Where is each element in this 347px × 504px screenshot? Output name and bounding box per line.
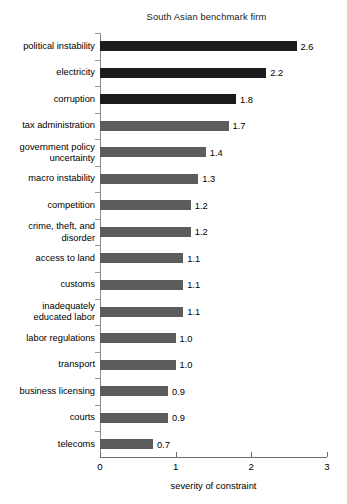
category-label: competition — [0, 200, 95, 211]
y-axis-tick — [95, 272, 100, 273]
bar-row: business licensing0.9 — [0, 378, 347, 405]
bar — [100, 147, 206, 157]
bar-value-label: 1.0 — [180, 360, 193, 370]
category-label: labor regulations — [0, 333, 95, 344]
bar — [100, 413, 168, 423]
y-axis-tick — [95, 86, 100, 87]
bar — [100, 121, 229, 131]
bar-value-label: 2.6 — [301, 42, 314, 52]
category-label: courts — [0, 412, 95, 423]
bar — [100, 333, 176, 343]
bar-value-label: 1.2 — [195, 227, 208, 237]
bar — [100, 200, 191, 210]
bar-row: electricity2.2 — [0, 60, 347, 87]
y-axis-tick — [95, 325, 100, 326]
bar-row: courts0.9 — [0, 405, 347, 432]
x-axis-tick — [251, 452, 252, 457]
bar-row: labor regulations1.0 — [0, 325, 347, 352]
category-label: customs — [0, 280, 95, 291]
category-label: inadequately educated labor — [0, 301, 95, 324]
bar-chart: South Asian benchmark firm political ins… — [0, 0, 347, 504]
x-axis-tick — [327, 452, 328, 457]
bar-row: transport1.0 — [0, 352, 347, 379]
y-axis-tick — [95, 378, 100, 379]
category-label: transport — [0, 359, 95, 370]
bar-row: access to land1.1 — [0, 245, 347, 272]
category-label: business licensing — [0, 386, 95, 397]
bar-value-label: 1.7 — [233, 121, 246, 131]
y-axis-tick — [95, 60, 100, 61]
y-axis-tick — [95, 219, 100, 220]
category-label: political instability — [0, 41, 95, 52]
y-axis-tick — [95, 299, 100, 300]
bar-row: inadequately educated labor1.1 — [0, 299, 347, 326]
category-label: access to land — [0, 253, 95, 264]
x-axis-title: severity of constraint — [100, 480, 327, 491]
bar-row: tax administration1.7 — [0, 113, 347, 140]
category-label: corruption — [0, 94, 95, 105]
bar-value-label: 0.7 — [157, 440, 170, 450]
bar-row: corruption1.8 — [0, 86, 347, 113]
y-axis-tick — [95, 33, 100, 34]
bar-value-label: 1.1 — [187, 280, 200, 290]
category-label: telecoms — [0, 439, 95, 450]
bar-value-label: 1.0 — [180, 334, 193, 344]
plot-area: political instability2.6electricity2.2co… — [0, 0, 347, 504]
bar-row: telecoms0.7 — [0, 431, 347, 458]
y-axis-tick — [95, 245, 100, 246]
x-axis-tick-label: 3 — [315, 461, 339, 472]
bar-value-label: 0.9 — [172, 387, 185, 397]
category-label: macro instability — [0, 174, 95, 185]
bar — [100, 253, 183, 263]
bar-value-label: 1.1 — [187, 307, 200, 317]
category-label: tax administration — [0, 120, 95, 131]
bar-row: political instability2.6 — [0, 33, 347, 60]
y-axis-tick — [95, 139, 100, 140]
bar — [100, 227, 191, 237]
bar-row: competition1.2 — [0, 192, 347, 219]
bar-value-label: 1.4 — [210, 148, 223, 158]
bar-row: customs1.1 — [0, 272, 347, 299]
bar-value-label: 1.3 — [202, 174, 215, 184]
x-axis-tick-label: 1 — [164, 461, 188, 472]
x-axis-tick-label: 2 — [239, 461, 263, 472]
category-label: crime, theft, and disorder — [0, 221, 95, 244]
bar — [100, 439, 153, 449]
bar-row: crime, theft, and disorder1.2 — [0, 219, 347, 246]
bar-value-label: 2.2 — [270, 68, 283, 78]
y-axis-tick — [95, 166, 100, 167]
y-axis-tick — [95, 352, 100, 353]
bar — [100, 386, 168, 396]
bar — [100, 41, 297, 51]
bar-row: macro instability1.3 — [0, 166, 347, 193]
y-axis-tick — [95, 431, 100, 432]
bar — [100, 174, 198, 184]
bar — [100, 280, 183, 290]
bar — [100, 68, 266, 78]
bar — [100, 360, 176, 370]
x-axis-tick — [100, 452, 101, 457]
x-axis-tick-label: 0 — [88, 461, 112, 472]
bar-value-label: 0.9 — [172, 413, 185, 423]
bar — [100, 307, 183, 317]
y-axis-tick — [95, 192, 100, 193]
bar — [100, 94, 236, 104]
y-axis-tick — [95, 113, 100, 114]
x-axis-tick — [176, 452, 177, 457]
bar-value-label: 1.8 — [240, 95, 253, 105]
bar-value-label: 1.1 — [187, 254, 200, 264]
y-axis-tick — [95, 405, 100, 406]
bar-row: government policy uncertainty1.4 — [0, 139, 347, 166]
category-label: government policy uncertainty — [0, 141, 95, 164]
bar-value-label: 1.2 — [195, 201, 208, 211]
category-label: electricity — [0, 67, 95, 78]
